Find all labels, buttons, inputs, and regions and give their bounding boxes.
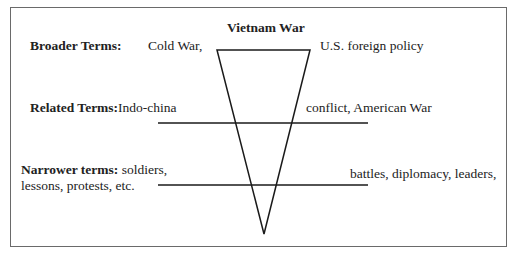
related-terms-right: conflict, American War: [306, 100, 432, 116]
narrower-terms-left-1: soldiers,: [122, 162, 167, 177]
narrower-terms-right: battles, diplomacy, leaders,: [350, 166, 496, 182]
inverted-triangle: [217, 50, 310, 234]
broader-terms-right: U.S. foreign policy: [320, 38, 424, 54]
related-terms-left: Indo-china: [118, 100, 176, 116]
related-terms-label: Related Terms:: [30, 100, 118, 116]
broader-terms-left: Cold War,: [148, 38, 202, 54]
narrower-terms-left-2: lessons, protests, etc.: [21, 178, 135, 194]
narrower-terms-line1: Narrower terms: soldiers,: [21, 162, 167, 178]
diagram-title: Vietnam War: [227, 20, 305, 36]
narrower-terms-label: Narrower terms:: [21, 162, 118, 177]
broader-terms-label: Broader Terms:: [30, 38, 121, 54]
